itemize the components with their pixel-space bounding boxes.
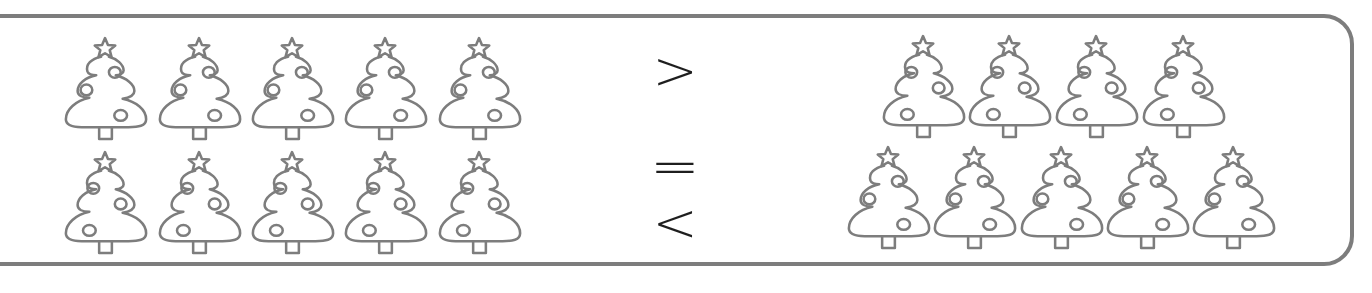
christmas-tree-icon (1188, 143, 1280, 253)
christmas-tree-icon (964, 32, 1056, 142)
christmas-tree-icon (247, 34, 339, 144)
christmas-tree-icon (878, 32, 970, 142)
christmas-tree-icon (1016, 143, 1108, 253)
christmas-tree-icon (154, 148, 246, 258)
christmas-tree-icon (1138, 32, 1230, 142)
christmas-tree-icon (60, 34, 152, 144)
christmas-tree-icon (929, 143, 1021, 253)
christmas-tree-icon (340, 148, 432, 258)
christmas-tree-icon (247, 148, 339, 258)
christmas-tree-icon (60, 148, 152, 258)
christmas-tree-icon (1051, 32, 1143, 142)
equals-symbol[interactable]: = (637, 140, 714, 194)
greater-than-symbol[interactable]: > (640, 44, 710, 98)
christmas-tree-icon (1102, 143, 1194, 253)
christmas-tree-icon (154, 34, 246, 144)
christmas-tree-icon (843, 143, 935, 253)
less-than-symbol[interactable]: < (640, 196, 710, 250)
christmas-tree-icon (434, 34, 526, 144)
christmas-tree-icon (340, 34, 432, 144)
christmas-tree-icon (434, 148, 526, 258)
